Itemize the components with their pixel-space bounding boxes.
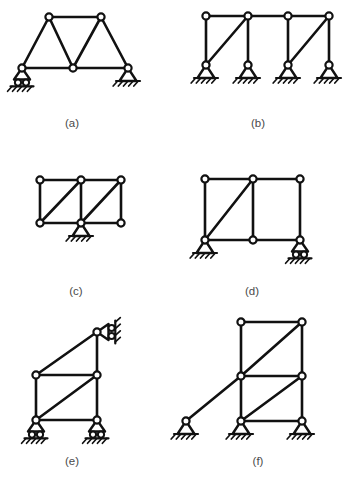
roller-wheel-a [15,80,21,86]
truss-member [40,180,81,223]
truss-member [205,179,253,240]
truss-joint [202,12,209,19]
truss-joint [284,61,291,68]
truss-joint [77,176,84,183]
roller-wheel-d [293,252,299,258]
figure-caption-d: (d) [245,285,259,297]
truss-member [81,180,121,223]
roller-wheel-a [23,80,29,86]
truss-joint [93,416,100,423]
figure-a [8,13,140,91]
members-d [205,179,300,240]
roller-wheel-e [29,432,35,438]
truss-joint [93,371,100,378]
figure-caption-c: (c) [69,285,83,297]
truss-diagram-canvas: (a)(b)(c)(d)(e)(f) [0,0,347,480]
truss-joint [77,219,84,226]
truss-joint [117,219,124,226]
truss-joint [284,12,291,19]
figure-caption-e: (e) [65,455,79,467]
roller-wheel-e [109,333,115,339]
truss-joint [298,372,305,379]
members-b [206,16,329,65]
truss-joint [237,318,244,325]
figure-d [190,175,311,263]
figure-e [22,318,121,444]
figure-caption-f: (f) [253,455,264,467]
truss-joint [202,61,209,68]
figures-root [8,12,341,443]
truss-joint [296,175,303,182]
roller-wheel-e [98,432,104,438]
truss-joint [36,219,43,226]
truss-joint [325,12,332,19]
truss-joint [201,236,208,243]
members-f [186,322,302,421]
truss-joint [249,236,256,243]
truss-joint [93,328,100,335]
truss-joint [97,13,104,20]
roller-wheel-e [90,432,96,438]
figure-caption-a: (a) [65,117,79,129]
members-e [36,332,97,420]
truss-member [206,16,248,65]
figure-c [36,176,124,241]
roller-wheel-d [301,252,307,258]
truss-member [49,17,73,68]
truss-joint [117,176,124,183]
figure-sheet: (a)(b)(c)(d)(e)(f) [0,0,347,480]
truss-member [22,17,49,68]
truss-joint [237,372,244,379]
truss-joint [237,417,244,424]
truss-joint [244,12,251,19]
members-a [22,17,128,68]
truss-joint [296,236,303,243]
truss-joint [325,61,332,68]
truss-member [288,16,329,65]
supports-b [191,65,341,83]
roller-wheel-e [37,432,43,438]
truss-joint [182,417,189,424]
joints-b [202,12,332,68]
truss-joint [249,175,256,182]
figure-caption-b: (b) [251,117,265,129]
truss-joint [244,61,251,68]
truss-joint [18,64,25,71]
truss-joint [201,175,208,182]
truss-member [36,375,97,420]
truss-joint [36,176,43,183]
truss-joint [32,371,39,378]
truss-member [101,17,128,68]
truss-joint [45,13,52,20]
truss-joint [124,64,131,71]
truss-member [241,322,302,376]
captions-root: (a)(b)(c)(d)(e)(f) [65,117,265,467]
truss-joint [32,416,39,423]
figure-f [171,318,314,439]
truss-joint [298,318,305,325]
members-c [40,180,121,223]
truss-member [73,17,101,68]
truss-member [241,376,302,421]
roller-wheel-e [109,325,115,331]
truss-joint [298,417,305,424]
truss-joint [69,64,76,71]
truss-member [36,332,97,375]
truss-member [186,376,241,421]
figure-b [191,12,341,83]
